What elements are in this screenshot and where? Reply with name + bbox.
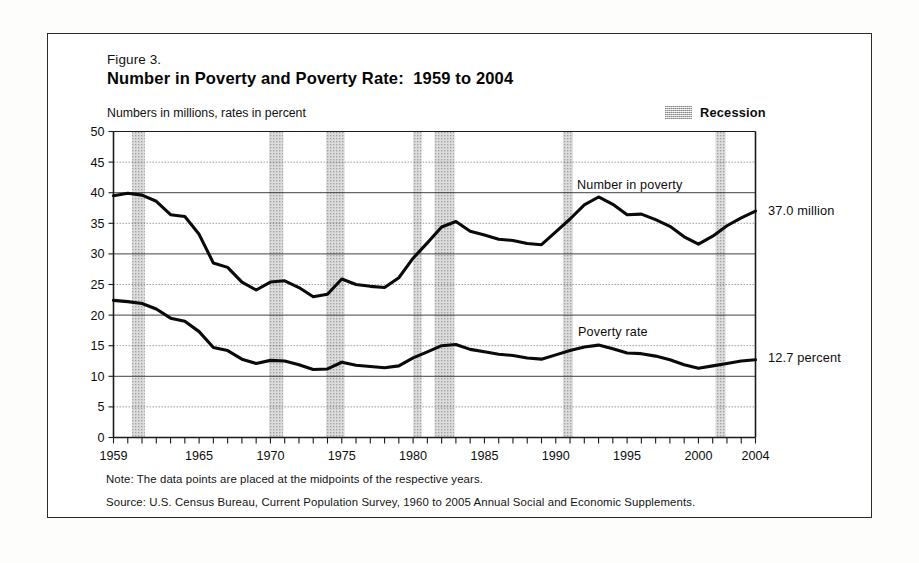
footnote-note: Note: The data points are placed at the … xyxy=(106,473,483,485)
series-label-number-in-poverty: Number in poverty xyxy=(577,178,682,192)
annotation-rate-end-value: 12.7 percent xyxy=(768,350,841,365)
legend-recession: Recession xyxy=(665,105,766,120)
recession-swatch-icon xyxy=(665,106,692,119)
footnote-source: Source: U.S. Census Bureau, Current Popu… xyxy=(106,496,695,508)
annotation-number-end-value: 37.0 million xyxy=(768,203,835,218)
legend-recession-label: Recession xyxy=(700,105,766,120)
figure-label: Figure 3. xyxy=(107,52,161,67)
series-label-poverty-rate: Poverty rate xyxy=(578,325,648,339)
figure-title: Number in Poverty and Poverty Rate: 1959… xyxy=(107,69,513,88)
axis-units-note: Numbers in millions, rates in percent xyxy=(107,106,306,120)
